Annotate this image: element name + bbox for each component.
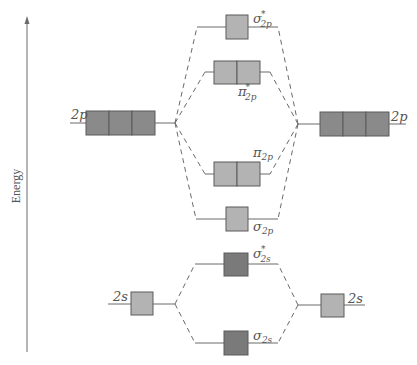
orbital-box [224, 331, 248, 355]
orbital-box [132, 111, 155, 135]
orbital-box [214, 61, 237, 84]
sigma-star-2s-orbital: σ*2s [195, 244, 278, 276]
correlation-lines-2p-right [270, 27, 298, 219]
sigma-star-2s-label: σ*2s [253, 244, 271, 264]
right-2p-orbital: 2p [298, 109, 408, 136]
orbital-box [237, 61, 260, 84]
left-2s-label: 2s [112, 289, 128, 304]
orbital-box [214, 162, 237, 186]
pi-star-2p-orbital: π*2p [205, 61, 270, 102]
pi-2p-label: π2p [252, 145, 273, 162]
correlation-lines-2p-left [175, 27, 205, 219]
left-2p-orbital: 2p [70, 107, 175, 135]
orbital-box [237, 162, 260, 186]
energy-axis-label: Energy [9, 169, 23, 203]
orbital-box [131, 292, 153, 315]
sigma-2s-label: σ2s [253, 328, 273, 345]
left-2s-orbital: 2s [108, 289, 175, 315]
mo-diagram: Energy 2p 2p 2s 2s σ*2p [0, 0, 417, 365]
orbital-box [343, 112, 366, 136]
pi-star-2p-label: π*2p [237, 82, 257, 102]
sigma-2s-orbital: σ2s [195, 328, 278, 355]
orbital-box [109, 111, 132, 135]
sigma-2p-label: σ2p [253, 219, 274, 236]
orbital-box [320, 112, 343, 136]
orbital-box [366, 112, 389, 136]
sigma-star-2p-orbital: σ*2p [197, 9, 278, 39]
orbital-box [226, 15, 248, 39]
right-2p-label: 2p [390, 109, 408, 124]
orbital-box [321, 294, 344, 317]
right-2s-orbital: 2s [298, 291, 365, 317]
orbital-box [224, 253, 248, 276]
energy-axis: Energy [9, 16, 30, 352]
left-2p-label: 2p [70, 107, 88, 122]
orbital-box [226, 207, 248, 231]
arrow-up-icon [25, 16, 30, 24]
orbital-box [86, 111, 109, 135]
sigma-star-2p-label: σ*2p [253, 9, 272, 29]
right-2s-label: 2s [347, 291, 363, 306]
sigma-2p-orbital: σ2p [196, 207, 278, 236]
pi-2p-orbital: π2p [205, 145, 273, 186]
